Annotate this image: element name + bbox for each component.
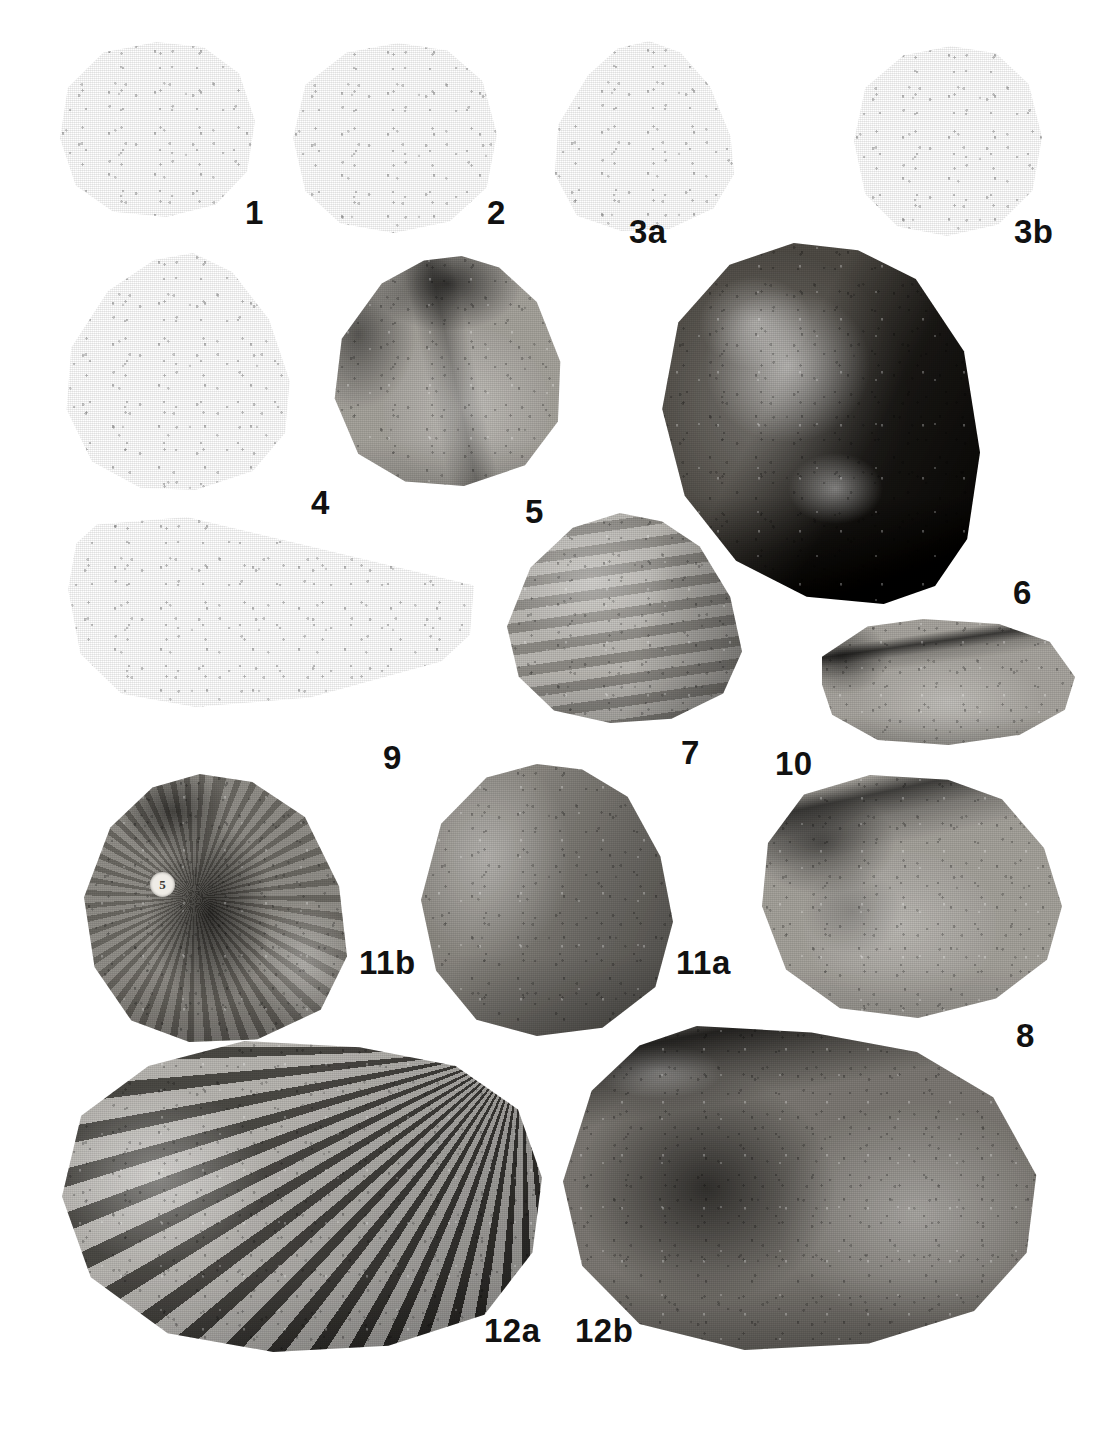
specimen-photo-9 [64,517,474,707]
figure-label-4: 4 [311,486,330,519]
specimen-photo-4 [62,253,292,490]
specimen-surface-3a [551,41,736,231]
figure-label-3a: 3a [629,215,667,248]
specimen-surface-7 [507,513,742,723]
specimen-surface-11b [84,774,347,1042]
specimen-photo-7 [507,513,742,723]
specimen-photo-6 [659,243,980,604]
figure-label-2: 2 [487,196,506,229]
specimen-surface-1 [58,42,255,217]
figure-label-5: 5 [525,495,544,528]
figure-label-11b: 11b [359,946,416,979]
figure-label-12a: 12a [484,1314,541,1347]
specimen-photo-5 [330,256,565,486]
figure-label-10: 10 [775,747,813,780]
figure-label-7: 7 [681,736,700,769]
specimen-photo-12b [563,1026,1041,1350]
specimen-surface-8 [762,775,1062,1018]
specimen-surface-9 [64,517,474,707]
figure-label-12b: 12b [575,1314,633,1347]
specimen-photo-3a [551,41,736,231]
specimen-surface-12b [563,1026,1041,1350]
figure-label-11a: 11a [676,946,731,979]
fossil-plate: 5123a3b456971011b11a812a12b [0,0,1112,1429]
specimen-surface-5 [330,256,565,486]
specimen-surface-6 [659,243,980,604]
figure-label-1: 1 [245,196,264,229]
figure-label-9: 9 [383,741,402,774]
specimen-photo-11b [84,774,347,1042]
figure-label-6: 6 [1013,576,1032,609]
specimen-surface-10 [822,619,1075,745]
figure-label-3b: 3b [1014,215,1054,248]
specimen-photo-12a [62,1041,542,1352]
specimen-photo-10 [822,619,1075,745]
specimen-photo-3b [852,46,1042,236]
specimen-surface-4 [62,253,292,490]
specimen-surface-3b [852,46,1042,236]
specimen-photo-1 [58,42,255,217]
figure-label-8: 8 [1016,1019,1035,1052]
specimen-surface-12a [62,1041,542,1352]
specimen-photo-8 [762,775,1062,1018]
specimen-photo-11a [421,764,673,1036]
specimen-surface-2 [291,43,497,233]
specimen-photo-2 [291,43,497,233]
specimen-registration-tag: 5 [150,872,175,897]
specimen-surface-11a [421,764,673,1036]
